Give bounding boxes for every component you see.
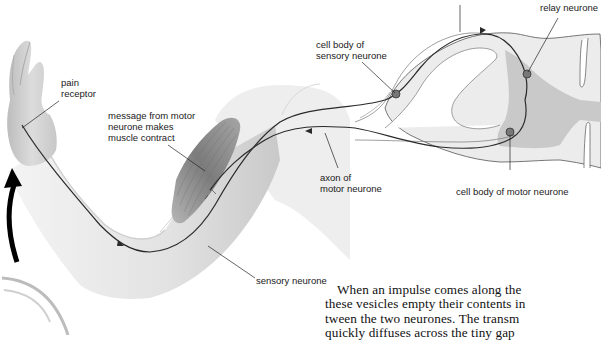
label-cell-body-motor: cell body of motor neurone	[456, 186, 568, 197]
label-pain-receptor: pain receptor	[61, 77, 96, 99]
movement-arrow	[9, 185, 17, 262]
arrowhead-sensory-cord	[480, 27, 486, 34]
hand-shape	[7, 41, 57, 166]
label-line: neurone makes	[108, 121, 195, 132]
body-line: tween the two neurones. The transm	[325, 312, 601, 326]
label-line: muscle contract	[108, 132, 195, 143]
label-line: pain	[61, 77, 96, 88]
body-paragraph: When an impulse comes along the these ve…	[325, 283, 601, 341]
body-line: When an impulse comes along the	[325, 283, 601, 297]
label-line: cell body of	[316, 39, 387, 50]
label-cell-body-sensory: cell body of sensory neurone	[316, 39, 387, 61]
body-line: quickly diffuses across the tiny gap	[325, 326, 601, 340]
relay-cell-body	[523, 70, 531, 78]
label-axon-motor: axon of motor neurone	[320, 172, 382, 194]
label-message-motor: message from motor neurone makes muscle …	[108, 110, 195, 143]
label-line: motor neurone	[320, 183, 382, 194]
label-relay-neurone: relay neurone	[540, 2, 598, 13]
label-line: receptor	[61, 88, 96, 99]
stimulus-object	[2, 278, 68, 335]
motor-cell-body	[506, 128, 514, 136]
label-line: message from motor	[108, 110, 195, 121]
label-sensory-neurone: sensory neurone	[256, 275, 327, 286]
label-line: axon of	[320, 172, 382, 183]
body-line: these vesicles empty their contents in	[325, 297, 601, 311]
leader-sensory-neurone	[208, 246, 255, 278]
label-line: sensory neurone	[316, 50, 387, 61]
leader-sensory-cell-body	[362, 62, 395, 93]
